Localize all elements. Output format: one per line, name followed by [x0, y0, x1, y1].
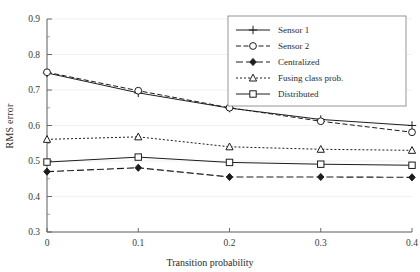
legend-label: Fusing class prob. [278, 73, 343, 83]
x-tick-label: 0.3 [315, 238, 327, 248]
y-tick-label: 0.8 [28, 50, 40, 60]
data-point-marker [44, 159, 50, 165]
legend-label: Sensor 1 [278, 25, 309, 35]
data-point-marker [44, 168, 50, 175]
x-axis-title: Transition probability [166, 257, 253, 268]
y-tick-label: 0.7 [28, 85, 40, 95]
data-point-marker [408, 147, 415, 154]
legend-marker [250, 91, 256, 97]
y-tick-labels-group: 0.30.40.50.60.70.80.9 [28, 14, 40, 237]
data-point-marker [226, 159, 232, 165]
data-point-marker [43, 136, 50, 143]
x-tick-label: 0.4 [406, 238, 418, 248]
y-axis-title: RMS error [4, 103, 15, 148]
x-tick-labels-group: 00.10.20.30.4 [45, 238, 419, 248]
data-point-marker [226, 173, 232, 180]
data-point-marker [409, 174, 415, 181]
data-point-marker [409, 162, 415, 168]
y-tick-label: 0.5 [28, 156, 40, 166]
data-point-marker [44, 69, 51, 76]
data-point-marker [135, 164, 141, 171]
y-tick-label: 0.9 [28, 14, 40, 24]
x-tick-label: 0.1 [132, 238, 144, 248]
y-tick-label: 0.4 [28, 192, 40, 202]
data-point-marker [317, 118, 324, 125]
data-point-marker [409, 129, 416, 136]
y-tick-label: 0.6 [28, 121, 40, 131]
data-point-marker [318, 161, 324, 167]
series-fusing-class-prob [43, 133, 415, 153]
data-point-marker [318, 173, 324, 180]
legend-marker [250, 43, 257, 50]
x-tick-label: 0.2 [224, 238, 236, 248]
data-point-marker [135, 154, 141, 160]
rms-error-line-chart: 00.10.20.30.4 0.30.40.50.60.70.80.9 Sens… [0, 0, 420, 272]
legend-label: Sensor 2 [278, 41, 309, 51]
data-point-marker [135, 87, 142, 94]
chart-legend: Sensor 1Sensor 2CentralizedFusing class … [228, 16, 406, 106]
series-centralized [44, 164, 415, 181]
legend-label: Centralized [278, 57, 320, 67]
legend-label: Distributed [278, 89, 319, 99]
y-tick-label: 0.3 [28, 227, 40, 237]
x-tick-label: 0 [45, 238, 50, 248]
chart-container: 00.10.20.30.4 0.30.40.50.60.70.80.9 Sens… [0, 0, 420, 272]
